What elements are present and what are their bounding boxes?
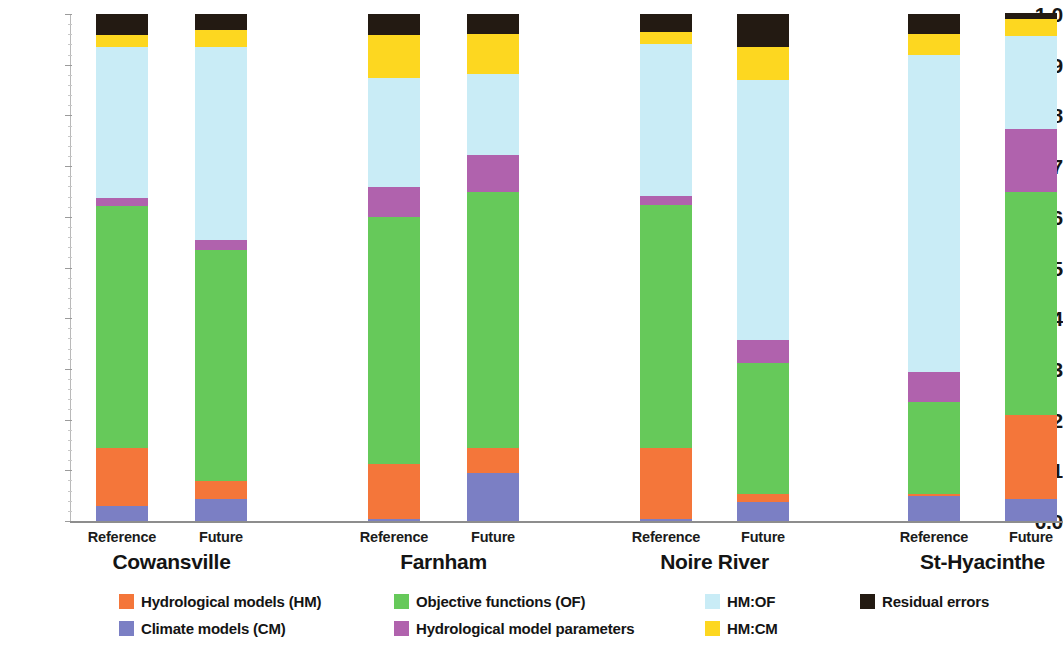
bar-segment-res — [467, 14, 519, 34]
y-axis-minor-tick — [68, 95, 72, 96]
legend-label: Residual errors — [882, 594, 989, 609]
bar-segment-hmp — [467, 155, 519, 192]
legend-label: Objective functions (OF) — [416, 594, 585, 609]
y-axis-minor-tick — [68, 328, 72, 329]
bar-segment-cm — [1005, 498, 1057, 521]
bar-segment-hmp — [737, 339, 789, 362]
x-axis-line — [70, 521, 1063, 523]
bar-segment-res — [195, 14, 247, 30]
bar-segment-of — [640, 204, 692, 448]
bar-segment-hmof — [368, 77, 420, 187]
stacked-bar — [195, 14, 247, 521]
stacked-bar — [96, 14, 148, 521]
y-axis-minor-tick — [68, 207, 72, 208]
x-axis-scenario-label: Reference — [360, 529, 428, 545]
bar-segment-hmof — [96, 47, 148, 198]
y-axis-tick-mark — [65, 14, 72, 15]
y-axis-minor-tick — [68, 247, 72, 248]
bar-segment-hmcm — [368, 34, 420, 78]
bar-segment-hmp — [195, 240, 247, 251]
bar-segment-hm — [737, 493, 789, 502]
bar-segment-res — [1005, 13, 1057, 19]
legend-item: Hydrological models (HM) — [119, 594, 321, 609]
legend-label: Hydrological models (HM) — [141, 594, 321, 609]
bar-segment-hm — [368, 464, 420, 519]
bar-segment-cm — [96, 506, 148, 522]
legend-swatch-icon — [119, 594, 134, 609]
bar-segment-hmof — [1005, 36, 1057, 129]
legend-swatch-icon — [119, 621, 134, 636]
stacked-bar — [737, 14, 789, 521]
x-axis-site-label: Farnham — [400, 550, 487, 574]
bar-segment-hmp — [1005, 128, 1057, 192]
bar-segment-res — [737, 14, 789, 47]
stacked-bar — [467, 14, 519, 521]
bar-segment-of — [908, 402, 960, 494]
legend-swatch-icon — [860, 594, 875, 609]
bar-segment-hm — [96, 447, 148, 506]
y-axis-minor-tick — [68, 511, 72, 512]
x-axis-site-label: Noire River — [660, 550, 769, 574]
legend-swatch-icon — [394, 594, 409, 609]
y-axis-minor-tick — [68, 480, 72, 481]
bar-segment-hmp — [640, 196, 692, 205]
y-axis-tick-mark — [65, 369, 72, 370]
stacked-bar — [640, 14, 692, 521]
legend-item: HM:OF — [705, 594, 775, 609]
y-axis-tick-mark — [65, 166, 72, 167]
bar-segment-res — [908, 14, 960, 34]
bar-segment-of — [467, 191, 519, 448]
stacked-bar — [908, 14, 960, 521]
y-axis-minor-tick — [68, 278, 72, 279]
y-axis-minor-tick — [68, 34, 72, 35]
x-axis-scenario-label: Reference — [88, 529, 156, 545]
x-axis-site-label: Cowansville — [112, 550, 230, 574]
y-axis-tick-mark — [65, 318, 72, 319]
y-axis-minor-tick — [68, 349, 72, 350]
bar-segment-hmp — [908, 371, 960, 402]
bar-segment-hm — [467, 447, 519, 473]
bar-segment-hm — [195, 480, 247, 498]
x-axis-site-label: St-Hyacinthe — [920, 550, 1045, 574]
x-axis-scenario-label: Reference — [632, 529, 700, 545]
bar-segment-hm — [1005, 415, 1057, 499]
legend-label: Climate models (CM) — [141, 621, 286, 636]
y-axis-minor-tick — [68, 338, 72, 339]
y-axis-minor-tick — [68, 359, 72, 360]
bar-segment-hmcm — [640, 32, 692, 44]
bar-segment-hmp — [368, 186, 420, 217]
y-axis-minor-tick — [68, 44, 72, 45]
bar-segment-of — [195, 250, 247, 481]
y-axis-minor-tick — [68, 430, 72, 431]
plot-area: 1.00.90.80.70.60.50.40.30.20.10.0 — [0, 0, 1063, 530]
y-axis-minor-tick — [68, 288, 72, 289]
y-axis-tick-mark — [65, 65, 72, 66]
legend-label: HM:OF — [727, 594, 775, 609]
y-axis-minor-tick — [68, 75, 72, 76]
legend-swatch-icon — [705, 621, 720, 636]
bar-segment-hmof — [737, 80, 789, 340]
bar-segment-cm — [467, 473, 519, 522]
bar-segment-res — [368, 14, 420, 35]
y-axis-minor-tick — [68, 197, 72, 198]
legend-swatch-icon — [705, 594, 720, 609]
bar-segment-hmp — [96, 198, 148, 207]
y-axis-minor-tick — [68, 156, 72, 157]
bar-segment-hmcm — [1005, 18, 1057, 36]
bar-segment-hm — [640, 447, 692, 518]
bar-segment-res — [96, 14, 148, 35]
stacked-bar — [1005, 14, 1057, 521]
y-axis-minor-tick — [68, 491, 72, 492]
bar-segment-hmof — [467, 74, 519, 156]
chart-figure: 1.00.90.80.70.60.50.40.30.20.10.0 Refere… — [0, 0, 1063, 645]
y-axis-tick-mark — [65, 470, 72, 471]
bar-segment-res — [640, 14, 692, 32]
legend-swatch-icon — [394, 621, 409, 636]
y-axis-minor-tick — [68, 85, 72, 86]
y-axis-minor-tick — [68, 237, 72, 238]
y-axis-minor-tick — [68, 126, 72, 127]
y-axis-minor-tick — [68, 409, 72, 410]
bar-segment-hmcm — [737, 47, 789, 80]
legend-item: Residual errors — [860, 594, 989, 609]
chart-legend: Hydrological models (HM)Objective functi… — [0, 588, 1063, 645]
